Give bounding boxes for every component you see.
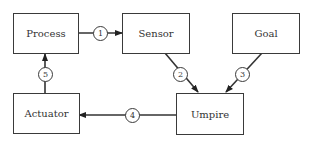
actuator-box: Actuator: [13, 93, 80, 134]
goal-label: Goal: [254, 28, 277, 39]
edge-3-marker: 3: [235, 67, 250, 82]
goal-box: Goal: [232, 13, 300, 54]
sensor-box: Sensor: [122, 13, 190, 54]
edge-1-label: 1: [98, 29, 103, 38]
process-box: Process: [13, 13, 79, 54]
umpire-box: Umpire: [176, 93, 244, 135]
edge-4-marker: 4: [125, 108, 140, 123]
edge-1-marker: 1: [93, 26, 108, 41]
sensor-label: Sensor: [138, 28, 173, 39]
umpire-label: Umpire: [191, 109, 229, 120]
edge-5-label: 5: [43, 70, 48, 79]
edge-2-label: 2: [178, 70, 183, 79]
edge-2-marker: 2: [173, 67, 188, 82]
edge-5-marker: 5: [38, 67, 53, 82]
edge-3-label: 3: [240, 70, 245, 79]
edge-4-label: 4: [130, 111, 135, 120]
actuator-label: Actuator: [24, 108, 68, 119]
process-label: Process: [26, 28, 65, 39]
